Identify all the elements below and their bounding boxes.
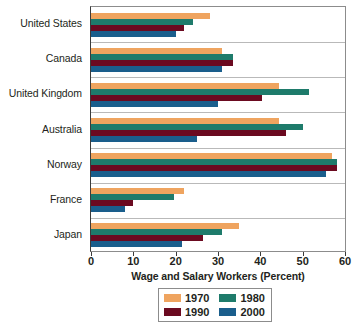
legend-item-1970[interactable]: 1970	[164, 292, 209, 304]
group-gridline	[91, 183, 345, 184]
bar-2000-united-kingdom	[91, 101, 218, 107]
legend-swatch-2000	[219, 308, 236, 316]
plot-area	[90, 6, 346, 252]
legend-label-1990: 1990	[185, 306, 209, 318]
x-tick-label-0: 0	[88, 255, 94, 267]
x-tick-label-50: 50	[297, 255, 309, 267]
legend-item-2000[interactable]: 2000	[219, 306, 264, 318]
group-gridline	[91, 77, 345, 78]
legend-swatch-1980	[219, 294, 236, 302]
category-label-united-states: United States	[0, 18, 82, 29]
bar-2000-japan	[91, 241, 182, 247]
x-tick-label-30: 30	[212, 255, 224, 267]
category-label-france: France	[0, 194, 82, 205]
x-tick-label-10: 10	[127, 255, 139, 267]
group-gridline	[91, 112, 345, 113]
x-axis-tick-labels: 0102030405060	[90, 255, 346, 269]
group-gridline	[91, 148, 345, 149]
legend-label-1970: 1970	[185, 292, 209, 304]
bar-2000-australia	[91, 136, 197, 142]
bar-2000-norway	[91, 171, 326, 177]
category-label-norway: Norway	[0, 159, 82, 170]
bar-2000-france	[91, 206, 125, 212]
category-label-australia: Australia	[0, 124, 82, 135]
category-label-canada: Canada	[0, 53, 82, 64]
legend-label-1980: 1980	[240, 292, 264, 304]
bar-2000-canada	[91, 66, 222, 72]
legend-label-2000: 2000	[240, 306, 264, 318]
group-gridline	[91, 42, 345, 43]
group-gridline	[91, 218, 345, 219]
category-label-japan: Japan	[0, 229, 82, 240]
chart-legend: 1970198019902000	[158, 288, 272, 322]
legend-swatch-1970	[164, 294, 181, 302]
category-label-united-kingdom: United Kingdom	[0, 88, 82, 99]
x-tick-label-40: 40	[254, 255, 266, 267]
x-tick-label-60: 60	[339, 255, 351, 267]
category-axis-labels: United StatesCanadaUnited KingdomAustral…	[0, 6, 86, 252]
x-tick-label-20: 20	[170, 255, 182, 267]
bar-2000-united-states	[91, 31, 176, 37]
x-axis-title: Wage and Salary Workers (Percent)	[90, 270, 346, 282]
legend-item-1990[interactable]: 1990	[164, 306, 209, 318]
legend-item-1980[interactable]: 1980	[219, 292, 264, 304]
legend-swatch-1990	[164, 308, 181, 316]
